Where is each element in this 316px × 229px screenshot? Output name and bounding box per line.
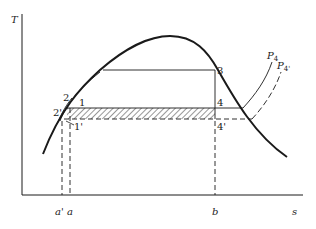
- point-label-3: 3: [217, 65, 223, 76]
- point-label-1: 1: [79, 97, 85, 108]
- point-label-1-prime: 1': [74, 121, 83, 132]
- ts-diagram: T s a' a b 2 1 2' 1' 3 4 4' P4 P4': [0, 0, 316, 229]
- point-label-2-prime: 2': [53, 107, 62, 118]
- tick-label-a: a: [67, 206, 73, 217]
- point-label-2: 2: [63, 92, 69, 103]
- point-label-4-prime: 4': [217, 121, 226, 132]
- isobar-p4-prime: [252, 72, 281, 119]
- isobar-p4: [243, 62, 272, 108]
- y-axis-label: T: [11, 14, 19, 25]
- axes: [22, 14, 303, 195]
- isobar-p4-prime-subscript: 4': [284, 65, 290, 73]
- hatched-area: [67, 108, 215, 119]
- tick-label-b: b: [212, 206, 218, 217]
- point-label-4: 4: [217, 97, 223, 108]
- x-axis-label: s: [292, 206, 297, 217]
- isobar-label-p4-prime: P4': [276, 60, 290, 73]
- tick-label-a-prime: a': [55, 206, 64, 217]
